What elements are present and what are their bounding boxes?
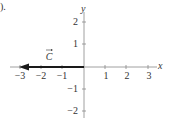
vector-c-label: C [46,49,53,62]
x-tick-label: 1 [104,70,109,81]
y-tick-label: −1 [67,83,78,94]
problem-label: ). [0,1,6,13]
y-axis-label: y [80,3,86,14]
vector-name: C [46,51,53,62]
x-tick-label: 2 [125,70,130,81]
x-tick-label: −3 [15,70,26,81]
x-axis-label: x [157,60,163,71]
y-tick-label: −2 [67,105,78,116]
x-tick-label: −1 [57,70,68,81]
x-tick-label: 3 [147,70,152,81]
vector-plot: ). x y −3 −2 −1 1 2 3 2 1 −1 −2 [0,0,169,122]
x-tick-labels: −3 −2 −1 1 2 3 [15,70,152,81]
y-tick-label: 2 [73,16,78,27]
x-tick-label: −2 [36,70,47,81]
y-tick-label: 1 [73,38,78,49]
vector-c [19,64,84,71]
